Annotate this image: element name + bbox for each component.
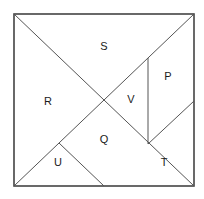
- tangram-diagram: S P R V Q U T: [0, 0, 204, 199]
- piece-label-u: U: [54, 156, 62, 168]
- piece-label-t: T: [161, 156, 168, 168]
- piece-label-v: V: [127, 93, 135, 105]
- tangram-figure-screenshot: S P R V Q U T: [0, 0, 204, 199]
- piece-label-r: R: [44, 95, 52, 107]
- piece-label-p: P: [164, 70, 171, 82]
- piece-label-q: Q: [100, 133, 109, 145]
- piece-label-s: S: [100, 40, 107, 52]
